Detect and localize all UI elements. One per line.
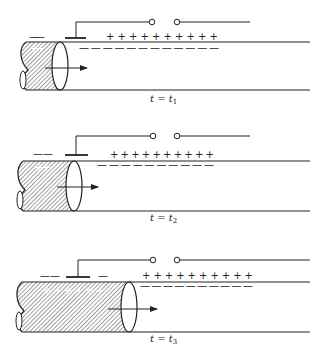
left-minus-charges: — — [33, 148, 53, 159]
terminal-left [149, 19, 155, 25]
inner-minus-charges: — — — — — — — — — — [140, 280, 253, 291]
inner-plus-charges: + + + + + + [43, 285, 104, 296]
terminal-right [174, 257, 180, 263]
electrode-wire [78, 260, 150, 277]
panel-t1: + + + + + + + + + + — — — — — — — — — — … [20, 19, 310, 106]
inner-plus-charges: + + [30, 43, 45, 54]
panel-t2: + + + + + + + + + + — — — — — — — — — — … [17, 133, 310, 225]
inner-plus-charges: + + [35, 162, 51, 173]
terminal-left [150, 133, 156, 139]
outer-plus-charges: + + + + + + + + + + [106, 31, 218, 42]
inner-minus-charges: — — — — — — — — — — [97, 159, 214, 170]
time-label-t2: t = t2 [150, 212, 177, 225]
inner-minus-charges: — — — — — — — — — — — — [79, 42, 219, 53]
wavefront-ellipse [121, 282, 137, 332]
left-minus-charges: — — [29, 31, 45, 42]
right-minus-charge: — [98, 270, 108, 281]
panel-t3: + + + + + + + + + + — — — — — — — — — — … [16, 257, 310, 346]
cylinder-cross-section [20, 71, 26, 89]
cylinder-cross-section [17, 191, 23, 209]
cylinder-cross-section [16, 312, 22, 330]
terminal-left [150, 257, 156, 263]
terminal-right [174, 19, 180, 25]
time-label-t3: t = t3 [150, 333, 177, 346]
time-label-t1: t = t1 [150, 93, 177, 106]
wavefront-ellipse [66, 161, 82, 211]
left-minus-charges: — — [40, 270, 60, 281]
terminal-right [174, 133, 180, 139]
wavefront-ellipse [52, 42, 68, 90]
impulse-diagram: + + + + + + + + + + — — — — — — — — — — … [0, 0, 329, 361]
